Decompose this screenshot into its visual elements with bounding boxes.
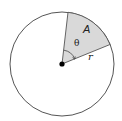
center-point: [59, 61, 64, 66]
sector-diagram-graphic: [0, 0, 122, 121]
radius-label: r: [88, 52, 93, 62]
sector-diagram: A θ r: [0, 0, 122, 121]
angle-label: θ: [74, 39, 79, 48]
area-label: A: [83, 24, 90, 35]
